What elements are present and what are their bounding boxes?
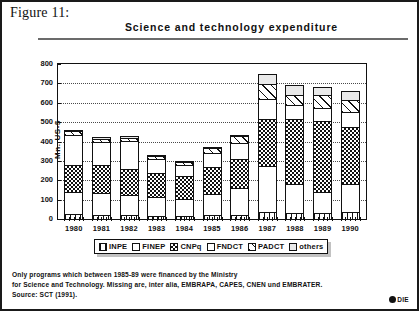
- x-tick: [147, 217, 148, 221]
- x-tick: [217, 217, 218, 221]
- bar-segment-finep: [258, 166, 277, 213]
- x-tick: [327, 217, 328, 221]
- legend-item-inpe[interactable]: INPE: [99, 242, 127, 251]
- x-tick: [285, 217, 286, 221]
- legend-label: CNPq: [180, 242, 201, 251]
- legend-item-padct[interactable]: PADCT: [248, 242, 284, 251]
- y-tick: [57, 83, 61, 84]
- x-tick: [101, 217, 102, 221]
- x-tick: [194, 217, 195, 221]
- legend-swatch-icon: [207, 243, 215, 251]
- y-tick: [57, 180, 61, 181]
- y-tick: [57, 161, 61, 162]
- x-tick: [134, 217, 135, 221]
- y-tick: [57, 103, 61, 104]
- bar-segment-others: [92, 137, 111, 139]
- x-tick: [152, 217, 153, 221]
- bar-segment-fndct: [341, 112, 360, 128]
- legend-label: PADCT: [258, 242, 284, 251]
- bar-segment-finep: [285, 184, 304, 213]
- footnote-line-1: Only programs which between 1985-89 were…: [12, 270, 352, 280]
- bar-segment-fndct: [64, 135, 83, 166]
- bar-1982: [120, 136, 139, 219]
- bar-1985: [203, 147, 222, 219]
- bar-segment-others: [341, 91, 360, 101]
- bar-segment-cnpq: [203, 167, 222, 196]
- x-tick: [222, 217, 223, 221]
- x-tick: [332, 217, 333, 221]
- bar-segment-fndct: [285, 105, 304, 120]
- bar-segment-finep: [147, 197, 166, 216]
- x-tick: [157, 217, 158, 221]
- y-tick: [57, 219, 61, 220]
- x-tick: [180, 217, 181, 221]
- x-tick: [129, 217, 130, 221]
- legend-swatch-icon: [99, 243, 107, 251]
- bar-segment-cnpq: [120, 169, 139, 196]
- bar-segment-fndct: [258, 99, 277, 120]
- legend-swatch-icon: [289, 243, 297, 251]
- y-tick-label: 100: [29, 196, 53, 204]
- bar-segment-fndct: [92, 142, 111, 166]
- footnote-line-2: for Science and Technology. Missing are,…: [12, 280, 352, 290]
- die-credit: DIE: [389, 296, 409, 303]
- bar-segment-others: [175, 161, 194, 163]
- footnote-line-3: Source: SCT (1991).: [12, 290, 352, 300]
- x-tick: [139, 217, 140, 221]
- bar-1984: [175, 161, 194, 219]
- x-tick: [290, 217, 291, 221]
- bar-segment-finep: [313, 192, 332, 214]
- bar-segment-finep: [120, 195, 139, 216]
- bar-segment-others: [285, 85, 304, 95]
- y-tick: [57, 142, 61, 143]
- bar-segment-cnpq: [258, 119, 277, 167]
- bar-1981: [92, 137, 111, 219]
- x-tick: [184, 217, 185, 221]
- x-tick: [124, 217, 125, 221]
- legend-swatch-icon: [248, 243, 256, 251]
- bar-segment-cnpq: [313, 121, 332, 193]
- x-tick: [350, 217, 351, 221]
- bar-segment-cnpq: [92, 165, 111, 194]
- legend-swatch-icon: [170, 243, 178, 251]
- x-tick: [300, 217, 301, 221]
- x-tick: [161, 217, 162, 221]
- x-tick: [111, 217, 112, 221]
- x-tick: [120, 217, 121, 221]
- x-tick: [69, 217, 70, 221]
- x-tick: [323, 217, 324, 221]
- x-tick: [240, 217, 241, 221]
- bar-segment-padct: [230, 136, 249, 144]
- y-tick: [57, 64, 61, 65]
- legend-label: FINEP: [142, 242, 165, 251]
- legend-item-finep[interactable]: FINEP: [132, 242, 165, 251]
- bar-segment-others: [64, 130, 83, 133]
- bar-segment-others: [147, 155, 166, 157]
- x-tick: [230, 217, 231, 221]
- x-tick: [175, 217, 176, 221]
- x-tick: [207, 217, 208, 221]
- bar-segment-fndct: [120, 141, 139, 169]
- y-tick: [57, 122, 61, 123]
- legend-item-others[interactable]: others: [289, 242, 323, 251]
- bar-1990: [341, 91, 360, 219]
- bar-1989: [313, 87, 332, 219]
- chart-legend: INPEFINEPCNPqFNDCTPADCTothers: [94, 239, 328, 254]
- bar-segment-finep: [175, 199, 194, 217]
- x-tick: [295, 217, 296, 221]
- x-tick: [244, 217, 245, 221]
- x-tick: [235, 217, 236, 221]
- bar-segment-padct: [313, 95, 332, 108]
- bar-segment-others: [120, 136, 139, 138]
- x-tick: [97, 217, 98, 221]
- bar-segment-finep: [64, 192, 83, 216]
- legend-item-cnpq[interactable]: CNPq: [170, 242, 201, 251]
- x-tick: [83, 217, 84, 221]
- legend-item-fndct[interactable]: FNDCT: [207, 242, 243, 251]
- gridline: [58, 83, 366, 84]
- x-tick: [318, 217, 319, 221]
- bar-segment-fndct: [203, 153, 222, 168]
- y-tick-label: 700: [29, 79, 53, 87]
- x-tick: [258, 217, 259, 221]
- bar-segment-others: [203, 147, 222, 149]
